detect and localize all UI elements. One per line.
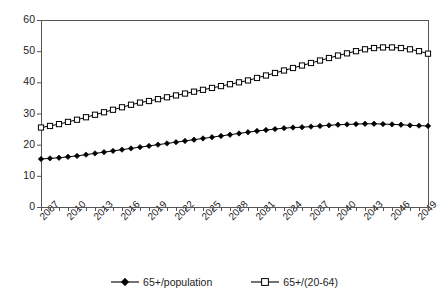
data-point-marker bbox=[290, 125, 295, 130]
series-line-0 bbox=[41, 124, 428, 159]
data-point-marker bbox=[173, 93, 178, 98]
data-point-marker bbox=[308, 124, 313, 129]
data-point-marker bbox=[155, 142, 160, 147]
data-point-marker bbox=[164, 141, 169, 146]
data-point-marker bbox=[101, 110, 106, 115]
data-point-marker bbox=[56, 122, 61, 127]
data-point-marker bbox=[119, 105, 124, 110]
data-point-marker bbox=[416, 123, 421, 128]
data-point-marker bbox=[65, 119, 70, 124]
data-point-marker bbox=[173, 139, 178, 144]
data-point-marker bbox=[425, 123, 430, 128]
data-point-marker bbox=[398, 122, 403, 127]
data-point-marker bbox=[146, 98, 151, 103]
data-point-marker bbox=[299, 125, 304, 130]
data-point-marker bbox=[227, 82, 232, 87]
legend-label-1: 65+/(20-64) bbox=[283, 277, 338, 288]
data-point-marker bbox=[218, 133, 223, 138]
data-point-marker bbox=[92, 112, 97, 117]
data-point-marker bbox=[128, 146, 133, 151]
data-point-marker bbox=[146, 143, 151, 148]
data-point-marker bbox=[38, 125, 43, 130]
plot-area bbox=[0, 0, 448, 301]
data-point-marker bbox=[209, 134, 214, 139]
data-point-marker bbox=[344, 51, 349, 56]
data-point-marker bbox=[416, 49, 421, 54]
data-point-marker bbox=[227, 132, 232, 137]
data-point-marker bbox=[74, 117, 79, 122]
data-point-marker bbox=[398, 45, 403, 50]
data-point-marker bbox=[200, 136, 205, 141]
data-point-marker bbox=[317, 123, 322, 128]
data-point-marker bbox=[137, 100, 142, 105]
data-point-marker bbox=[254, 75, 259, 80]
series-line-1 bbox=[41, 47, 428, 127]
data-point-marker bbox=[245, 130, 250, 135]
data-point-marker bbox=[335, 53, 340, 58]
data-point-marker bbox=[182, 138, 187, 143]
data-point-marker bbox=[200, 87, 205, 92]
data-point-marker bbox=[164, 95, 169, 100]
chart-legend: 65+/population 65+/(20-64) bbox=[0, 276, 448, 288]
data-point-marker bbox=[83, 115, 88, 120]
data-point-marker bbox=[389, 122, 394, 127]
data-point-marker bbox=[209, 85, 214, 90]
data-point-marker bbox=[371, 45, 376, 50]
data-point-marker bbox=[110, 148, 115, 153]
data-point-marker bbox=[281, 125, 286, 130]
data-point-marker bbox=[191, 89, 196, 94]
data-point-marker bbox=[362, 47, 367, 52]
data-point-marker bbox=[101, 149, 106, 154]
data-point-marker bbox=[290, 65, 295, 70]
data-point-marker bbox=[281, 68, 286, 73]
data-point-marker bbox=[218, 83, 223, 88]
data-point-marker bbox=[47, 123, 52, 128]
data-point-marker bbox=[83, 152, 88, 157]
data-point-marker bbox=[344, 122, 349, 127]
data-point-marker bbox=[110, 107, 115, 112]
data-point-marker bbox=[236, 131, 241, 136]
data-point-marker bbox=[362, 121, 367, 126]
demographic-ratio-chart: 0102030405060 20072010201320162019202220… bbox=[0, 0, 448, 301]
data-point-marker bbox=[326, 123, 331, 128]
legend-entry-65plus-20-64: 65+/(20-64) bbox=[250, 276, 338, 288]
data-point-marker bbox=[47, 156, 52, 161]
data-point-marker bbox=[191, 137, 196, 142]
data-point-marker bbox=[299, 63, 304, 68]
data-point-marker bbox=[56, 155, 61, 160]
data-point-marker bbox=[353, 121, 358, 126]
legend-label-0: 65+/population bbox=[143, 277, 212, 288]
data-point-marker bbox=[65, 154, 70, 159]
data-point-marker bbox=[407, 47, 412, 52]
data-point-marker bbox=[155, 97, 160, 102]
data-point-marker bbox=[263, 127, 268, 132]
data-point-marker bbox=[425, 51, 430, 56]
data-point-marker bbox=[92, 151, 97, 156]
data-point-marker bbox=[380, 45, 385, 50]
data-point-marker bbox=[245, 78, 250, 83]
data-point-marker bbox=[137, 144, 142, 149]
data-point-marker bbox=[317, 58, 322, 63]
data-point-marker bbox=[272, 70, 277, 75]
data-point-marker bbox=[128, 102, 133, 107]
data-point-marker bbox=[380, 121, 385, 126]
data-point-marker bbox=[353, 49, 358, 54]
data-point-marker bbox=[119, 147, 124, 152]
data-point-marker bbox=[74, 153, 79, 158]
data-point-marker bbox=[254, 128, 259, 133]
data-point-marker bbox=[407, 123, 412, 128]
legend-entry-65plus-population: 65+/population bbox=[110, 276, 212, 288]
data-point-marker bbox=[182, 91, 187, 96]
data-point-marker bbox=[263, 73, 268, 78]
data-point-marker bbox=[326, 55, 331, 60]
data-point-marker bbox=[272, 126, 277, 131]
data-point-marker bbox=[236, 80, 241, 85]
data-point-marker bbox=[389, 45, 394, 50]
data-point-marker bbox=[335, 122, 340, 127]
data-point-marker bbox=[38, 156, 43, 161]
legend-marker-open-square-icon bbox=[250, 276, 280, 288]
data-point-marker bbox=[308, 60, 313, 65]
data-point-marker bbox=[371, 121, 376, 126]
legend-marker-filled-diamond-icon bbox=[110, 276, 140, 288]
